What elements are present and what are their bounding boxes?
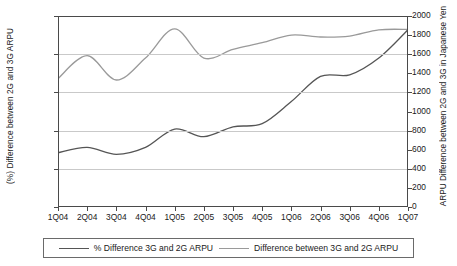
right-tick-label: 800 [412,125,426,135]
left-axis-title-text: (%) Difference between 2G and 3G ARPU [6,28,15,184]
right-axis-title-text: ARPU Difference between 2G and 3G in Jap… [438,6,449,206]
right-tick-label: 2000 [412,10,431,20]
x-tick-mark [321,207,322,211]
x-tick-label: 3Q05 [223,212,244,222]
x-tick-label: 3Q06 [339,212,360,222]
legend-label-yen-difference: Difference between 3G and 2G ARPU [254,243,398,253]
line-swatch-light-icon [219,248,249,249]
legend-label-percent-difference: % Difference 3G and 2G ARPU [94,243,213,253]
right-tick-label: 200 [412,182,426,192]
chart-container: (%) Difference between 2G and 3G ARPU AR… [0,0,457,266]
right-tick-label: 0 [412,201,417,211]
right-tick-mark [408,150,412,151]
x-tick-label: 1Q04 [48,212,69,222]
legend-item-yen-difference[interactable]: Difference between 3G and 2G ARPU [219,243,398,253]
plot-frame [58,16,408,207]
x-tick-mark [116,207,117,211]
left-axis-title: (%) Difference between 2G and 3G ARPU [2,0,18,212]
right-tick-label: 1200 [412,86,431,96]
right-tick-mark [408,73,412,74]
right-tick-mark [408,169,412,170]
right-tick-mark [408,92,412,93]
x-tick-mark [291,207,292,211]
right-axis-title: ARPU Difference between 2G and 3G in Jap… [430,0,456,212]
x-tick-mark [87,207,88,211]
right-tick-label: 600 [412,144,426,154]
x-tick-mark [408,207,409,211]
x-tick-mark [58,207,59,211]
x-tick-label: 1Q07 [398,212,419,222]
line-swatch-dark-icon [59,248,89,249]
right-tick-mark [408,131,412,132]
x-tick-label: 4Q06 [369,212,390,222]
x-tick-label: 4Q04 [135,212,156,222]
right-tick-mark [408,16,412,17]
x-tick-mark [379,207,380,211]
right-tick-mark [408,188,412,189]
x-tick-label: 2Q06 [310,212,331,222]
x-tick-mark [175,207,176,211]
right-tick-label: 1800 [412,29,431,39]
right-tick-mark [408,112,412,113]
x-tick-mark [233,207,234,211]
x-tick-label: 3Q04 [106,212,127,222]
x-tick-label: 1Q05 [164,212,185,222]
legend-item-percent-difference[interactable]: % Difference 3G and 2G ARPU [59,243,213,253]
x-tick-label: 4Q05 [252,212,273,222]
right-tick-label: 400 [412,163,426,173]
right-tick-mark [408,35,412,36]
x-tick-label: 2Q05 [194,212,215,222]
right-tick-label: 1600 [412,48,431,58]
right-tick-label: 1000 [412,106,431,116]
x-tick-mark [350,207,351,211]
x-tick-label: 1Q06 [281,212,302,222]
right-tick-mark [408,54,412,55]
right-tick-label: 1400 [412,67,431,77]
x-tick-mark [204,207,205,211]
plot-area [58,16,408,207]
x-tick-label: 2Q04 [77,212,98,222]
x-tick-mark [262,207,263,211]
chart-legend: % Difference 3G and 2G ARPU Difference b… [43,238,414,258]
x-tick-mark [146,207,147,211]
